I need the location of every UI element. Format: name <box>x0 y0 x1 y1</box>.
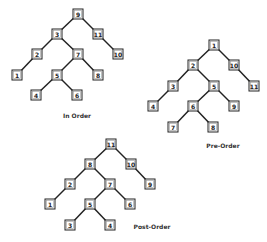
tree-node: 11 <box>106 139 116 149</box>
node-label: 4 <box>151 103 155 110</box>
tree-node: 7 <box>105 179 115 189</box>
tree-node: 7 <box>73 49 83 59</box>
tree-node: 6 <box>125 199 135 209</box>
pre-order-caption: Pre-Order <box>206 142 239 149</box>
tree-node: 2 <box>65 179 75 189</box>
tree-node: 4 <box>105 220 115 230</box>
node-label: 9 <box>232 103 236 110</box>
node-label: 6 <box>128 201 132 208</box>
pre-order-tree: 1210351146978Pre-Order <box>148 40 259 149</box>
tree-node: 11 <box>249 81 259 91</box>
node-label: 1 <box>15 72 19 79</box>
tree-node: 8 <box>85 159 95 169</box>
tree-node: 5 <box>52 70 62 80</box>
tree-node: 11 <box>93 29 103 39</box>
tree-node: 10 <box>229 60 239 70</box>
node-label: 2 <box>191 62 195 69</box>
node-label: 4 <box>108 222 112 229</box>
node-label: 9 <box>148 181 152 188</box>
node-label: 10 <box>114 51 122 58</box>
in-order-tree: 9311271015846In Order <box>12 9 123 119</box>
node-label: 6 <box>75 92 79 99</box>
tree-node: 4 <box>31 90 41 100</box>
node-label: 3 <box>55 31 59 38</box>
node-label: 7 <box>76 51 80 58</box>
tree-node: 9 <box>73 9 83 19</box>
tree-node: 9 <box>229 101 239 111</box>
in-order-caption: In Order <box>63 112 91 119</box>
tree-node: 3 <box>168 81 178 91</box>
node-label: 1 <box>212 42 216 49</box>
tree-node: 4 <box>148 101 158 111</box>
tree-node: 5 <box>209 81 219 91</box>
node-label: 4 <box>34 92 38 99</box>
post-order-tree: 1181027915634Post-Order <box>45 139 170 230</box>
tree-node: 1 <box>12 70 22 80</box>
tree-node: 3 <box>65 220 75 230</box>
tree-node: 1 <box>209 40 219 50</box>
node-label: 5 <box>212 83 216 90</box>
node-label: 11 <box>94 31 102 38</box>
node-label: 1 <box>48 201 52 208</box>
node-label: 7 <box>171 124 175 131</box>
tree-traversal-diagram: 9311271015846In Order 1210351146978Pre-O… <box>0 0 267 242</box>
tree-node: 2 <box>32 49 42 59</box>
node-label: 6 <box>191 103 195 110</box>
node-label: 10 <box>230 62 238 69</box>
node-label: 10 <box>127 161 135 168</box>
node-label: 5 <box>55 72 59 79</box>
node-label: 8 <box>96 72 100 79</box>
tree-node: 10 <box>113 49 123 59</box>
tree-node: 3 <box>52 29 62 39</box>
tree-node: 1 <box>45 199 55 209</box>
tree-node: 6 <box>188 101 198 111</box>
node-label: 2 <box>35 51 39 58</box>
tree-node: 9 <box>145 179 155 189</box>
post-order-caption: Post-Order <box>134 223 171 230</box>
node-label: 2 <box>68 181 72 188</box>
tree-node: 5 <box>85 199 95 209</box>
tree-node: 7 <box>168 122 178 132</box>
node-label: 11 <box>107 141 115 148</box>
node-label: 8 <box>211 124 215 131</box>
node-label: 9 <box>76 11 80 18</box>
node-label: 8 <box>88 161 92 168</box>
tree-node: 6 <box>72 90 82 100</box>
node-label: 7 <box>108 181 112 188</box>
tree-node: 8 <box>208 122 218 132</box>
node-label: 11 <box>250 83 258 90</box>
node-label: 5 <box>88 201 92 208</box>
tree-node: 8 <box>93 70 103 80</box>
node-label: 3 <box>171 83 175 90</box>
node-label: 3 <box>68 222 72 229</box>
tree-node: 2 <box>188 60 198 70</box>
tree-node: 10 <box>126 159 136 169</box>
